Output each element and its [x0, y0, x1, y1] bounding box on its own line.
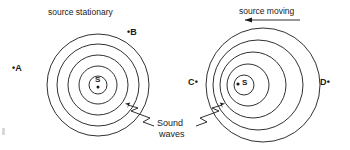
- moving-source-label: S: [242, 78, 247, 87]
- stationary-wavefront-5: [47, 34, 149, 136]
- moving-source-dot: [236, 82, 239, 85]
- observer-point-c: C•: [188, 77, 198, 87]
- stationary-source-dot: [97, 86, 100, 89]
- observer-point-d: D•: [320, 77, 330, 87]
- moving-wavefront-2: [227, 64, 269, 106]
- sound-waves-annotation-line2: waves: [159, 129, 185, 139]
- moving-wavefront-3: [220, 52, 286, 118]
- leader-to-right-wavefront: [196, 103, 225, 126]
- moving-wavefront-group: [206, 28, 320, 142]
- moving-wavefront-4: [213, 40, 303, 130]
- sound-waves-annotation-line1: Sound: [157, 118, 183, 128]
- observer-point-b: •B: [127, 27, 137, 37]
- scan-artifact: [2, 128, 5, 135]
- doppler-effect-diagram: source stationary source moving •A •B C•…: [0, 0, 350, 150]
- moving-panel-heading: source moving: [239, 7, 294, 17]
- motion-arrow-left-icon: [245, 17, 300, 22]
- stationary-source-label: S: [95, 75, 100, 84]
- stationary-panel-heading: source stationary: [48, 8, 113, 18]
- stationary-wavefront-4: [57, 44, 139, 126]
- stationary-wavefront-group: [47, 34, 149, 136]
- observer-point-a: •A: [12, 63, 22, 73]
- leader-to-left-wavefront: [125, 103, 154, 126]
- stationary-wavefront-2: [79, 66, 117, 104]
- stationary-wavefront-3: [68, 55, 128, 115]
